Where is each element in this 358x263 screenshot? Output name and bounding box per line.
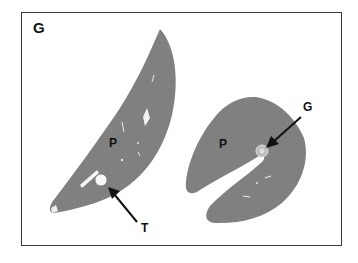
left-tissue-section [50,29,176,213]
arrow-tumor [114,194,137,222]
histology-illustration [0,0,358,263]
tumor-label: T [141,222,148,234]
right-tissue-section [186,97,306,223]
parenchyma-label-right: P [219,138,227,150]
tumor-nodule [95,174,107,186]
parenchyma-label-left: P [109,137,117,149]
panel-label: G [33,20,45,35]
granuloma-label: G [303,101,312,113]
